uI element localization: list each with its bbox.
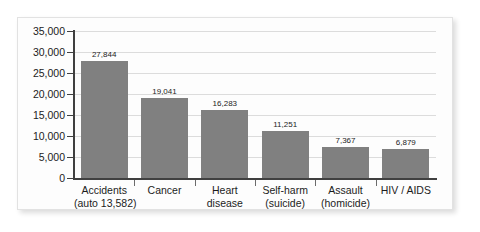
bar-value-label: 27,844 <box>81 50 128 59</box>
category-label-line1: Assault <box>328 184 362 196</box>
bar[interactable] <box>322 147 369 178</box>
y-axis-tick-label: 10,000 <box>33 131 65 141</box>
y-axis-tick-label: 15,000 <box>33 110 65 120</box>
bar[interactable] <box>81 61 128 178</box>
y-axis-tick-label: 0 <box>59 173 65 183</box>
x-axis-category-label: Cancer <box>134 184 194 197</box>
y-axis-tick-label: 35,000 <box>33 26 65 36</box>
category-label-line2: (homicide) <box>315 197 375 210</box>
bar-value-label: 6,879 <box>382 138 429 147</box>
x-axis-category-label: Heartdisease <box>195 184 255 210</box>
x-axis-category-label: Self-harm(suicide) <box>255 184 315 210</box>
x-axis-category-label: HIV / AIDS <box>376 184 436 197</box>
category-label-line1: Cancer <box>148 184 182 196</box>
category-label-line1: Heart <box>212 184 238 196</box>
y-axis-tick-label: 20,000 <box>33 89 65 99</box>
chart-frame: 05,00010,00015,00020,00025,00030,00035,0… <box>17 17 453 210</box>
y-axis-tick-label: 5,000 <box>39 152 65 162</box>
bar[interactable] <box>382 149 429 178</box>
category-label-line1: Accidents <box>81 184 127 196</box>
category-label-line2: (auto 13,582) <box>74 197 134 210</box>
bar-value-label: 19,041 <box>141 87 188 96</box>
y-axis-tick-label: 30,000 <box>33 47 65 57</box>
bar[interactable] <box>262 131 309 178</box>
x-axis-category-label: Accidents(auto 13,582) <box>74 184 134 210</box>
category-label-line1: Self-harm <box>262 184 308 196</box>
figure: 05,00010,00015,00020,00025,00030,00035,0… <box>0 0 480 232</box>
bar[interactable] <box>201 110 248 178</box>
bar-value-label: 11,251 <box>262 120 309 129</box>
category-label-line1: HIV / AIDS <box>381 184 431 196</box>
bar-value-label: 7,367 <box>322 136 369 145</box>
category-label-line2: (suicide) <box>255 197 315 210</box>
y-axis-tick-labels: 05,00010,00015,00020,00025,00030,00035,0… <box>18 18 65 211</box>
bar-value-label: 16,283 <box>201 99 248 108</box>
bar[interactable] <box>141 98 188 178</box>
plot-area: 27,84419,04116,28311,2517,3676,879 <box>74 31 436 178</box>
x-axis-category-label: Assault(homicide) <box>315 184 375 210</box>
category-label-line2: disease <box>195 197 255 210</box>
y-axis-tick-label: 25,000 <box>33 68 65 78</box>
